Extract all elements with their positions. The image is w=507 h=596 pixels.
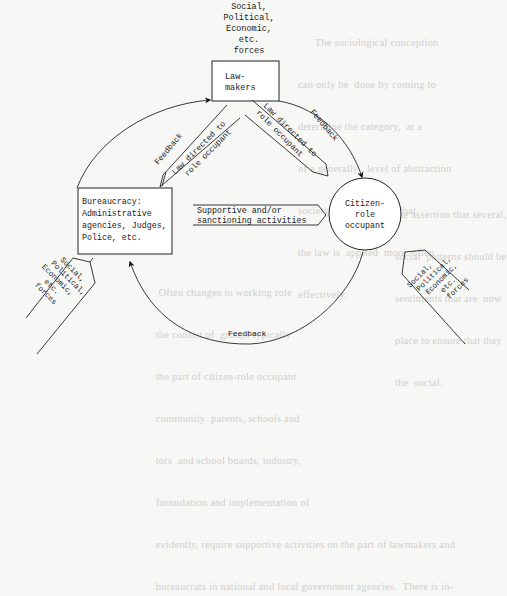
- bleed-line: formulation and implementation of: [150, 496, 455, 510]
- forces-line: Political,: [223, 13, 274, 23]
- bleed-line: evidently, require supportive activities…: [150, 538, 455, 552]
- bleed-line: community parents, schools and: [150, 412, 455, 426]
- forces-label-top: Social, Political, Economic, etc. forces: [223, 2, 274, 56]
- citizen-node: Citizen- role occupant: [329, 178, 401, 250]
- bureaucracy-node: Bureaucracy: Administrative agencies, Ju…: [78, 188, 172, 254]
- bureaucracy-label: Administrative: [82, 209, 152, 218]
- citizen-label: role: [355, 210, 375, 219]
- citizen-label: occupant: [345, 221, 385, 230]
- bureaucracy-label: Bureaucracy:: [82, 197, 142, 206]
- forces-arrow-right: Social, Political, Economic, etc. forces: [402, 249, 472, 344]
- supportive-label-line: sanctioning activities: [197, 216, 307, 225]
- forces-line: etc.: [239, 35, 259, 45]
- bureaucracy-label: agencies, Judges,: [82, 221, 167, 230]
- forces-line: forces: [234, 46, 265, 56]
- feedback-label-right: Feedback: [308, 108, 340, 143]
- forces-line: Social,: [231, 2, 267, 12]
- citizen-label: Citizen-: [345, 199, 385, 208]
- supportive-activities-arrow: Supportive and/or sanctioning activities: [193, 205, 326, 225]
- lawmakers-node: Law- makers: [212, 61, 279, 101]
- forces-arrow-left: Social, Political, Economic, etc. forces: [26, 250, 95, 354]
- bleed-line: tors and school boards, industry,: [150, 454, 455, 468]
- lawmakers-label: Law-: [225, 72, 245, 82]
- lawmakers-label: makers: [225, 83, 256, 93]
- bureaucracy-label: Police, etc.: [82, 233, 142, 242]
- supportive-label-line: Supportive and/or: [197, 206, 282, 215]
- feedback-label-bottom: Feedback: [228, 329, 267, 338]
- forces-line: Economic,: [226, 24, 272, 34]
- bleed-line: bureaucrats in national and local govern…: [150, 580, 455, 594]
